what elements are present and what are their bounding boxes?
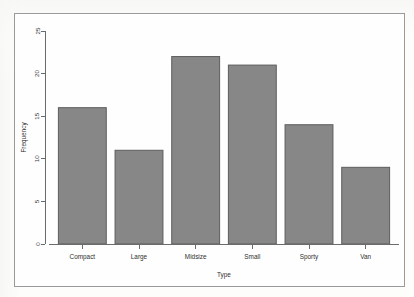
bar — [285, 125, 333, 244]
bar — [115, 150, 163, 244]
y-axis-tick-label: 25 — [34, 27, 41, 34]
y-axis-tick-label: 0 — [34, 242, 41, 246]
x-axis-category-label: Midsize — [185, 253, 207, 260]
y-axis-tick-label: 20 — [34, 70, 41, 77]
x-axis-category-label: Sporty — [300, 253, 319, 261]
x-axis-category-label: Van — [360, 253, 371, 260]
x-axis-category-label: Large — [131, 253, 148, 261]
bar — [172, 57, 220, 244]
x-axis-category-label: Small — [244, 253, 260, 260]
bar — [228, 65, 276, 244]
x-axis-title: Type — [217, 271, 231, 279]
bar-chart: 0510152025FrequencyCompactLargeMidsizeSm… — [14, 13, 405, 287]
y-axis-tick-label: 15 — [34, 112, 41, 119]
y-axis-title: Frequency — [20, 122, 28, 153]
y-axis-tick-label: 5 — [34, 199, 41, 203]
bar — [342, 167, 390, 244]
figure-root: 0510152025FrequencyCompactLargeMidsizeSm… — [0, 0, 414, 297]
bar — [58, 108, 106, 244]
y-axis-tick-label: 10 — [34, 155, 41, 162]
x-axis-category-label: Compact — [70, 253, 96, 261]
